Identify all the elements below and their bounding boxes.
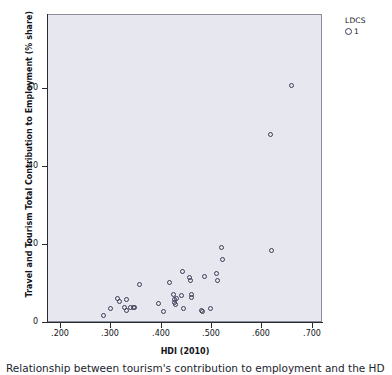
data-point xyxy=(219,245,224,250)
y-tick-mark xyxy=(42,166,47,167)
x-tick-mark xyxy=(60,323,61,328)
x-tick-label: .700 xyxy=(292,330,332,338)
data-point xyxy=(161,309,166,314)
open-circle-icon xyxy=(345,28,352,35)
x-axis-line xyxy=(47,322,323,323)
data-point xyxy=(202,274,207,279)
y-tick-mark xyxy=(42,88,47,89)
data-point xyxy=(200,309,205,314)
data-point xyxy=(101,313,106,318)
data-point xyxy=(189,295,194,300)
x-tick-label: .400 xyxy=(141,330,181,338)
y-tick-label: 0 xyxy=(0,318,38,326)
data-point xyxy=(181,306,186,311)
x-tick-label: .300 xyxy=(90,330,130,338)
data-point xyxy=(117,299,122,304)
figure-caption: Relationship between tourism's contribut… xyxy=(6,362,392,374)
data-point xyxy=(214,271,219,276)
data-point xyxy=(179,293,184,298)
data-point xyxy=(289,83,294,88)
data-point xyxy=(173,302,178,307)
x-tick-label: .500 xyxy=(191,330,231,338)
data-point xyxy=(167,280,172,285)
data-point xyxy=(124,297,129,302)
plot-area xyxy=(47,14,322,322)
data-point xyxy=(269,248,274,253)
data-point xyxy=(215,278,220,283)
data-point-layer xyxy=(48,15,321,321)
scatter-plot-figure: 0204060 Travel and Tourism Total Contrib… xyxy=(0,0,392,375)
data-point xyxy=(268,132,273,137)
x-tick-mark xyxy=(110,323,111,328)
y-axis-line xyxy=(47,14,48,322)
x-axis-title: HDI (2010) xyxy=(47,347,323,356)
data-point xyxy=(188,278,193,283)
data-point xyxy=(180,269,185,274)
data-point xyxy=(208,306,213,311)
legend: LDCS 1 xyxy=(345,16,391,36)
y-tick-mark xyxy=(42,244,47,245)
data-point xyxy=(156,301,161,306)
x-tick-label: .200 xyxy=(40,330,80,338)
x-tick-mark xyxy=(312,323,313,328)
legend-entry: 1 xyxy=(345,27,391,36)
data-point xyxy=(108,306,113,311)
y-axis-title: Travel and Tourism Total Contribution to… xyxy=(25,48,34,298)
x-tick-label: .600 xyxy=(241,330,281,338)
data-point xyxy=(132,305,137,310)
x-tick-mark xyxy=(261,323,262,328)
data-point xyxy=(220,257,225,262)
data-point xyxy=(137,282,142,287)
legend-entry-label: 1 xyxy=(354,27,359,36)
legend-title: LDCS xyxy=(345,16,391,26)
x-tick-mark xyxy=(161,323,162,328)
x-tick-mark xyxy=(211,323,212,328)
